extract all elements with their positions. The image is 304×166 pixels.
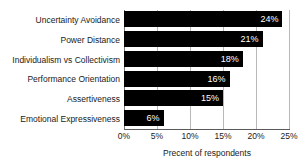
x-axis-title: Precent of respondents bbox=[124, 148, 290, 158]
category-label: Uncertainty Avoidance bbox=[0, 15, 120, 25]
category-label: Emotional Expressiveness bbox=[0, 114, 120, 124]
bar: 21% bbox=[124, 31, 263, 47]
bar-chart: 24%21%18%16%15%6% Uncertainty AvoidanceP… bbox=[0, 0, 304, 166]
bar-row: 18% bbox=[124, 50, 289, 70]
category-axis-labels: Uncertainty AvoidancePower DistanceIndiv… bbox=[0, 10, 120, 129]
x-tick-label: 15% bbox=[214, 131, 231, 141]
category-label: Power Distance bbox=[0, 35, 120, 45]
bar-value-label: 16% bbox=[208, 74, 226, 83]
bar-row: 21% bbox=[124, 30, 289, 50]
x-tick-label: 0% bbox=[118, 131, 130, 141]
bar: 16% bbox=[124, 71, 230, 87]
bar-value-label: 6% bbox=[147, 114, 160, 123]
bar: 18% bbox=[124, 51, 243, 67]
bar-value-label: 24% bbox=[260, 15, 278, 24]
category-label: Performance Orientation bbox=[0, 74, 120, 84]
bar-row: 16% bbox=[124, 70, 289, 90]
x-tick-label: 25% bbox=[280, 131, 297, 141]
bar-row: 6% bbox=[124, 109, 289, 129]
plot-area: 24%21%18%16%15%6% bbox=[124, 10, 289, 129]
bar-value-label: 21% bbox=[241, 34, 259, 43]
bar: 24% bbox=[124, 11, 282, 27]
x-axis-tick-labels: 0%5%10%15%20%25% bbox=[124, 131, 289, 143]
x-tick-label: 20% bbox=[247, 131, 264, 141]
bar-value-label: 18% bbox=[221, 54, 239, 63]
category-label: Individualism vs Collectivism bbox=[0, 55, 120, 65]
bar-rows: 24%21%18%16%15%6% bbox=[124, 10, 289, 129]
bar-row: 15% bbox=[124, 89, 289, 109]
x-tick-label: 10% bbox=[181, 131, 198, 141]
x-tick-label: 5% bbox=[151, 131, 163, 141]
x-axis-baseline bbox=[124, 129, 290, 130]
bar: 6% bbox=[124, 110, 164, 126]
bar-value-label: 15% bbox=[201, 94, 219, 103]
bar: 15% bbox=[124, 90, 223, 106]
category-label: Assertiveness bbox=[0, 94, 120, 104]
gridline-25 bbox=[289, 10, 290, 129]
bar-row: 24% bbox=[124, 10, 289, 30]
